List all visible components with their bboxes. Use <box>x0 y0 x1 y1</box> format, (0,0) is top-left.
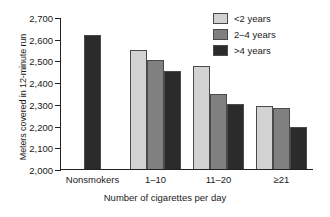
bar <box>130 50 147 169</box>
bar-chart: Meters covered in 12-minute run 2,7002,6… <box>0 0 330 217</box>
legend-swatch <box>213 13 228 24</box>
y-axis-tick-label: 2,500 <box>29 56 53 67</box>
bar <box>256 106 273 169</box>
x-axis-category-labels: Nonsmokers1–1011–20≥21 <box>61 174 313 185</box>
x-axis-title: Number of cigarettes per day <box>0 192 330 203</box>
legend-item: <2 years <box>213 13 276 24</box>
x-axis-category-label: 11–20 <box>187 174 250 185</box>
bar <box>290 127 307 169</box>
legend-item: >4 years <box>213 45 276 56</box>
bar <box>227 104 244 169</box>
y-axis-tick-label: 2,300 <box>29 99 53 110</box>
y-axis-tick-label: 2,100 <box>29 143 53 154</box>
bar <box>164 71 181 169</box>
y-axis-tick-label: 2,400 <box>29 78 53 89</box>
legend: <2 years2–4 years>4 years <box>213 13 276 56</box>
bar <box>84 35 101 169</box>
bar <box>147 60 164 169</box>
y-axis-tick-label: 2,600 <box>29 34 53 45</box>
bar <box>210 94 227 169</box>
y-axis-tick-label: 2,000 <box>29 165 53 176</box>
legend-label: <2 years <box>234 13 271 24</box>
y-axis-tick-label: 2,200 <box>29 121 53 132</box>
y-axis-tick-mark <box>55 170 61 171</box>
y-axis-tick-label: 2,700 <box>29 13 53 24</box>
legend-label: >4 years <box>234 45 271 56</box>
y-axis-title: Meters covered in 12-minute run <box>18 27 28 167</box>
bar-group <box>124 18 187 169</box>
legend-swatch <box>213 29 228 40</box>
x-axis-category-label: Nonsmokers <box>61 174 124 185</box>
legend-item: 2–4 years <box>213 29 276 40</box>
legend-swatch <box>213 45 228 56</box>
x-axis-category-label: ≥21 <box>250 174 313 185</box>
x-axis-line <box>60 169 313 170</box>
x-axis-category-label: 1–10 <box>124 174 187 185</box>
bar <box>193 66 210 169</box>
bar <box>273 108 290 169</box>
legend-label: 2–4 years <box>234 29 276 40</box>
bar-group <box>61 18 124 169</box>
